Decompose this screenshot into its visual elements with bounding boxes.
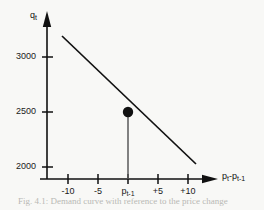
x-tick-label-zero: pt-1 — [110, 186, 146, 196]
x-axis-title-p1-sub: t — [227, 175, 229, 182]
y-tick-label-2000: 2000 — [6, 161, 36, 171]
y-axis-arrowhead — [43, 11, 51, 27]
demand-curve-figure: 3000 2500 2000 qt -10 -5 pt-1 +5 +10 pt-… — [0, 0, 264, 210]
y-tick-label-3000: 3000 — [6, 51, 36, 61]
figure-caption: Fig. 4.1: Demand curve with reference to… — [18, 198, 228, 206]
x-axis-title: pt-pt-1 — [222, 171, 245, 181]
demand-curve-line — [62, 36, 196, 164]
x-axis-arrowhead — [202, 175, 218, 183]
y-tick-label-2500: 2500 — [6, 106, 36, 116]
y-axis-title: qt — [30, 10, 37, 20]
x-tick-label-plus10: +10 — [170, 186, 206, 196]
caption-strip: Fig. 4.1: Demand curve with reference to… — [0, 198, 264, 210]
equilibrium-point-marker — [123, 107, 133, 117]
y-axis-title-sub: t — [35, 14, 37, 21]
x-axis-title-p2-sub: t-1 — [237, 175, 245, 182]
x-tick-label-minus10: -10 — [50, 186, 86, 196]
x-tick-label-zero-sub: t-1 — [126, 190, 134, 197]
